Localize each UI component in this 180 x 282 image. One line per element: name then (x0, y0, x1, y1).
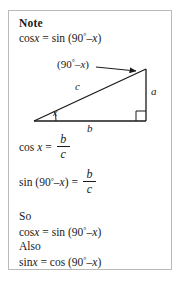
note-box: Note cosx = sin (90°–x) (8, 10, 172, 270)
vertical-leg-label-a: a (151, 85, 157, 97)
so-rhs-close: ) (97, 226, 101, 238)
eq2-numerator: b (83, 168, 95, 181)
angle-x-label: x (53, 107, 57, 118)
also-rhs-open: (90 (68, 256, 83, 268)
so-equals: = (42, 226, 49, 238)
angle-90-minus-x-label: (90°–x) (57, 58, 89, 70)
also-lhs-function: sin (19, 256, 32, 268)
eq2-arg-open: (90 (35, 176, 50, 188)
intro-equals: = (42, 32, 49, 44)
also-rhs-close: ) (97, 256, 101, 268)
right-angle-marker (136, 111, 146, 121)
so-lhs-variable: x (34, 226, 39, 238)
conclusion-block: So cosx = sin (90°–x) Also sinx = cos (9… (19, 209, 101, 269)
intro-rhs-open: (90 (68, 32, 83, 44)
intro-lhs-variable: x (34, 32, 39, 44)
intro-rhs-close: ) (97, 32, 101, 44)
so-label: So (19, 209, 101, 224)
also-lhs-variable: x (32, 256, 37, 268)
intro-identity: cosx = sin (90°–x) (19, 32, 101, 44)
angle-label-leader-line (96, 67, 136, 71)
eq1-function: cos (19, 141, 34, 153)
hypotenuse-line (34, 69, 146, 121)
angle-label-close: ) (85, 58, 89, 70)
eq1-argument: x (37, 141, 42, 153)
eq1-fraction: b c (57, 133, 70, 160)
eq2-denominator: c (84, 182, 95, 195)
angle-label-open: (90 (57, 58, 72, 70)
equation-sin-90-minus-x: sin (90°–x) = b c (19, 168, 96, 195)
also-rhs-function: cos (50, 256, 65, 268)
equation-cos-x: cos x = b c (19, 133, 70, 160)
intro-rhs-function: sin (52, 32, 65, 44)
eq2-arg-close: ) (65, 176, 69, 188)
note-heading: Note (19, 17, 43, 29)
eq2-equals: = (71, 176, 78, 188)
eq2-function: sin (19, 176, 32, 188)
eq1-equals: = (45, 141, 52, 153)
also-equals: = (40, 256, 47, 268)
so-rhs-function: sin (52, 226, 65, 238)
intro-lhs-function: cos (19, 32, 34, 44)
also-identity: sinx = cos (90°–x) (19, 254, 101, 270)
so-lhs-function: cos (19, 226, 34, 238)
right-triangle-figure: (90°–x) c a b x (9, 49, 171, 129)
eq2-fraction: b c (83, 168, 96, 195)
eq1-denominator: c (58, 147, 69, 160)
base-leg-label-b: b (87, 122, 93, 134)
eq1-numerator: b (57, 133, 69, 146)
so-rhs-open: (90 (68, 226, 83, 238)
so-identity: cosx = sin (90°–x) (19, 224, 101, 240)
hypotenuse-label-c: c (75, 80, 80, 92)
also-label: Also (19, 239, 101, 254)
